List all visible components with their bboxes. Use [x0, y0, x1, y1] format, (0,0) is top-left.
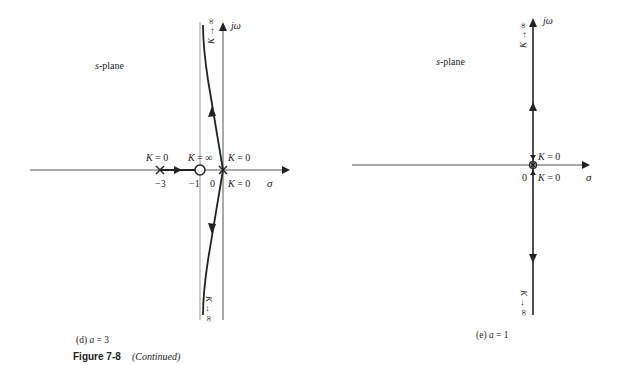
imag-axis-arrow-icon [219, 22, 227, 31]
locus-upper-arrow-icon [529, 102, 537, 111]
panel-e-caption: (e) a = 1 [476, 330, 509, 341]
origin-arrow-up-icon [530, 170, 536, 175]
zero-label-kinf: K = ∞ [187, 152, 212, 163]
tick-label-neg3: −3 [155, 178, 166, 189]
imag-axis-label: jω [229, 20, 241, 31]
branch-top-label: K → ∞ [518, 22, 528, 49]
tick-label-0: 0 [522, 172, 527, 183]
origin-label-top: K = 0 [227, 152, 250, 163]
figure-note: (Continued) [132, 351, 181, 363]
panel-e: s-plane jω σ K = 0 K = 0 0 K → ∞ K → ∞ (… [352, 15, 592, 341]
panel-d-caption: (d) a = 3 [76, 335, 109, 346]
locus-lower-branch [203, 170, 223, 315]
pole-label-k0: KK = 0 = 0 [145, 152, 168, 163]
figure-caption: Figure 7-8 (Continued) [73, 351, 181, 363]
locus-lower-arrow-icon [529, 254, 537, 263]
origin-label-bottom: K = 0 [227, 178, 250, 189]
s-plane-label: s-plane [436, 56, 465, 67]
locus-upper-branch [203, 25, 223, 170]
locus-lower-arrow-icon [208, 223, 216, 234]
tick-label-neg1: −1 [189, 178, 200, 189]
panel-d: s-plane jω σ KK = 0 = 0 K = ∞ K = 0 K = … [30, 18, 290, 346]
figure-number: Figure 7-8 [73, 351, 121, 362]
real-axis-label: σ [267, 177, 273, 189]
s-plane-label: s-plane [95, 60, 124, 71]
root-locus-figure: s-plane jω σ KK = 0 = 0 K = ∞ K = 0 K = … [0, 0, 617, 365]
real-axis-arrow-icon [582, 161, 590, 169]
branch-bottom-label: K → ∞ [519, 289, 529, 316]
real-axis-label: σ [586, 171, 592, 183]
zero-marker-icon [195, 165, 205, 175]
branch-top-label: K → ∞ [206, 18, 216, 45]
imag-axis-arrow-icon [529, 18, 537, 27]
origin-label-top: K = 0 [537, 151, 560, 162]
locus-arrow-icon [174, 166, 182, 174]
origin-arrow-down-icon [530, 155, 536, 160]
imag-axis-label: jω [541, 15, 553, 26]
origin-label-bottom: K = 0 [537, 172, 560, 183]
tick-label-0: 0 [210, 178, 215, 189]
locus-upper-arrow-icon [208, 106, 216, 117]
branch-bottom-label: K → ∞ [204, 295, 214, 322]
real-axis-arrow-icon [282, 166, 290, 174]
